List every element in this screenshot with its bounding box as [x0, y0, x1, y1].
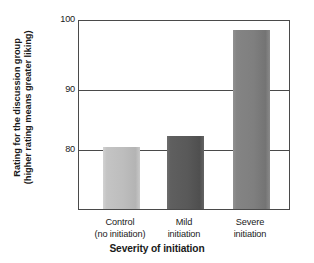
- x-axis-category-labels: Control (no initiation) Mild initiation …: [78, 213, 290, 245]
- bar-severe-fill: [233, 30, 270, 209]
- y-axis-title-line-2: (higher rating means greater liking): [23, 30, 34, 184]
- y-axis-title-line-1: Rating for the discussion group: [12, 38, 23, 177]
- x-label-mild-line-1: Mild: [176, 217, 192, 227]
- x-axis-title: Severity of initiation: [0, 243, 314, 254]
- x-label-severe-line-1: Severe: [236, 217, 265, 227]
- plot-area: [78, 20, 290, 210]
- x-label-severe-line-2: initiation: [200, 229, 300, 241]
- bar-mild-fill: [167, 136, 204, 209]
- y-tick-label-80: 80: [45, 144, 75, 154]
- bar-control[interactable]: [103, 147, 140, 209]
- bar-chart-figure: Rating for the discussion group (higher …: [0, 0, 314, 263]
- x-label-severe: Severe initiation: [200, 217, 300, 240]
- bar-severe[interactable]: [233, 30, 270, 209]
- bar-control-fill: [103, 147, 140, 209]
- y-tick-label-100: 100: [45, 14, 75, 24]
- bar-mild[interactable]: [167, 136, 204, 209]
- x-label-control-line-1: Control: [106, 217, 135, 227]
- y-axis-title: Rating for the discussion group (higher …: [0, 0, 46, 214]
- y-tick-label-90: 90: [45, 84, 75, 94]
